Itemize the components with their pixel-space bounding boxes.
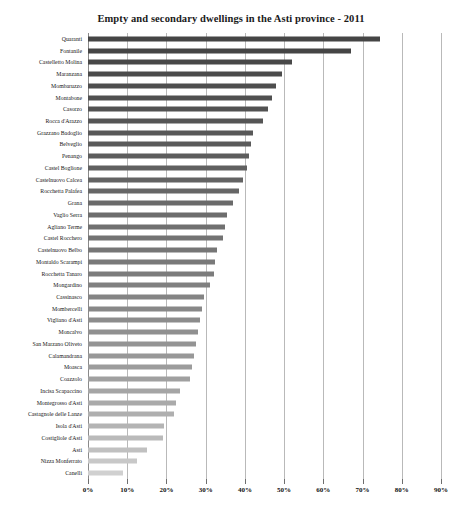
- category-label: Montabone: [0, 92, 86, 104]
- category-label: Mombercelli: [0, 303, 86, 315]
- bar-row: [88, 315, 441, 327]
- bar-quaranti: [88, 36, 380, 41]
- category-label-text: Mombercelli: [52, 305, 82, 312]
- bar-row: [88, 92, 441, 104]
- tick-label-80pct: 80%: [395, 486, 409, 494]
- category-label-text: Castelletto Molina: [39, 59, 82, 66]
- bar-row: [88, 350, 441, 362]
- category-label: Agliano Terme: [0, 221, 86, 233]
- bar-row: [88, 80, 441, 92]
- category-label-text: Cassinasco: [56, 294, 82, 301]
- category-label-text: Calamandrana: [49, 352, 82, 359]
- bar-rocchetta-palafea: [88, 189, 239, 194]
- category-label: Incisa Scapaccino: [0, 385, 86, 397]
- bar-series: [88, 33, 441, 479]
- tick-mark: [127, 479, 128, 484]
- category-label-text: Costigliole d'Asti: [42, 434, 83, 441]
- tick-label-0pct: 0%: [83, 486, 94, 494]
- category-label-text: Castel Rocchero: [44, 235, 82, 242]
- category-label: San Marzano Oliveto: [0, 338, 86, 350]
- bar-row: [88, 338, 441, 350]
- category-label-text: Castelnuovo Belbo: [38, 247, 82, 254]
- bar-penango: [88, 154, 249, 159]
- bar-coazzolo: [88, 377, 190, 382]
- tick-label-10pct: 10%: [120, 486, 134, 494]
- bar-row: [88, 186, 441, 198]
- bar-montabone: [88, 95, 272, 100]
- bar-asti: [88, 447, 147, 452]
- bar-row: [88, 385, 441, 397]
- chart-title: Empty and secondary dwellings in the Ast…: [0, 12, 462, 25]
- bar-maranzana: [88, 72, 282, 77]
- bar-row: [88, 209, 441, 221]
- tick-label-70pct: 70%: [356, 486, 370, 494]
- category-label: Casorzo: [0, 103, 86, 115]
- bar-row: [88, 279, 441, 291]
- bar-fontanile: [88, 48, 351, 53]
- category-label-text: Mongardino: [53, 282, 82, 289]
- category-label: Castel Rocchero: [0, 232, 86, 244]
- bar-row: [88, 420, 441, 432]
- bar-costigliole-d-asti: [88, 435, 163, 440]
- bar-isola-d-asti: [88, 424, 164, 429]
- category-label-text: Incisa Scapaccino: [40, 387, 82, 394]
- bar-moasca: [88, 365, 192, 370]
- bar-vaglio-serra: [88, 212, 227, 217]
- tick-label-40pct: 40%: [238, 486, 252, 494]
- category-label-text: Grana: [68, 200, 82, 207]
- bar-row: [88, 232, 441, 244]
- bar-row: [88, 139, 441, 151]
- bar-row: [88, 127, 441, 139]
- bar-row: [88, 432, 441, 444]
- bar-vigliano-d-asti: [88, 318, 200, 323]
- tick-mark: [441, 479, 442, 484]
- tick-mark: [323, 479, 324, 484]
- bar-row: [88, 45, 441, 57]
- bar-castel-rocchero: [88, 236, 223, 241]
- bar-row: [88, 150, 441, 162]
- tick-label-50pct: 50%: [277, 486, 291, 494]
- bar-row: [88, 409, 441, 421]
- tick-mark: [402, 479, 403, 484]
- bar-canelli: [88, 471, 123, 476]
- bar-agliano-terme: [88, 224, 225, 229]
- category-label-text: Asti: [72, 446, 82, 453]
- category-label-text: Castagnole delle Lanze: [28, 411, 82, 418]
- bar-row: [88, 197, 441, 209]
- category-label: Grazzano Badoglio: [0, 127, 86, 139]
- category-label-text: Moasca: [64, 364, 82, 371]
- category-label-text: Castelnuovo Calcea: [36, 176, 82, 183]
- bar-row: [88, 397, 441, 409]
- category-label: Costigliole d'Asti: [0, 432, 86, 444]
- tick-mark: [88, 479, 89, 484]
- category-label: Rocchetta Tanaro: [0, 268, 86, 280]
- category-label-text: Maranzana: [56, 71, 82, 78]
- category-label-text: Agliano Terme: [47, 223, 82, 230]
- category-label: Penango: [0, 150, 86, 162]
- category-label: Montegrosso d'Asti: [0, 397, 86, 409]
- tick-mark: [166, 479, 167, 484]
- category-label: Mombaruzzo: [0, 80, 86, 92]
- category-label: Moasca: [0, 362, 86, 374]
- bar-montaldo-scarampi: [88, 259, 215, 264]
- category-label-text: San Marzano Oliveto: [32, 340, 82, 347]
- bar-san-marzano-oliveto: [88, 341, 196, 346]
- category-label-text: Quaranti: [62, 35, 82, 42]
- category-label: Mongardino: [0, 279, 86, 291]
- bar-castel-boglione: [88, 165, 247, 170]
- category-label-text: Castel Boglione: [45, 164, 82, 171]
- bar-castagnole-delle-lanze: [88, 412, 174, 417]
- category-label-text: Grazzano Badoglio: [37, 129, 82, 136]
- category-label: Calamandrana: [0, 350, 86, 362]
- bar-casorzo: [88, 107, 268, 112]
- tick-mark: [206, 479, 207, 484]
- category-label-text: Vigliano d'Asti: [47, 317, 82, 324]
- category-label: Castelnuovo Belbo: [0, 244, 86, 256]
- bar-grazzano-badoglio: [88, 130, 253, 135]
- category-label-text: Montaldo Scarampi: [36, 258, 82, 265]
- bar-moncalvo: [88, 330, 198, 335]
- category-label: Belveglio: [0, 139, 86, 151]
- bar-row: [88, 174, 441, 186]
- category-label-text: Rocchetta Tanaro: [41, 270, 82, 277]
- category-label: Grana: [0, 197, 86, 209]
